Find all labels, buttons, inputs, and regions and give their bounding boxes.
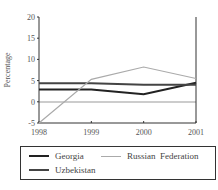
legend-swatch-uzbekistan <box>29 169 49 171</box>
legend-label-uzbekistan: Uzbekistan <box>55 165 96 175</box>
y-tick-label: 15 <box>27 34 35 43</box>
legend-swatch-georgia <box>29 155 49 157</box>
x-tick-label: 1999 <box>83 128 99 137</box>
x-tick-label: 2000 <box>136 128 152 137</box>
series-line-uzbekistan <box>39 83 196 85</box>
series-line-russian-federation <box>39 67 196 123</box>
legend-swatch-russia <box>101 156 121 157</box>
y-axis-label: Percentage <box>3 52 12 88</box>
legend-label-georgia: Georgia <box>55 151 84 161</box>
y-ticks: 20151050-5 <box>27 13 39 128</box>
legend-item-georgia: Georgia <box>29 151 84 161</box>
x-tick-label: 1998 <box>31 128 47 137</box>
y-tick-label: 5 <box>31 77 35 86</box>
legend-item-russia: Russian Federation <box>101 151 199 161</box>
series-lines <box>39 67 196 123</box>
legend: Georgia Uzbekistan Russian Federation <box>20 146 216 180</box>
y-tick-label: 10 <box>27 55 35 64</box>
y-tick-label: 0 <box>31 98 35 107</box>
y-tick-label: -5 <box>28 119 35 128</box>
x-tick-label: 2001 <box>188 128 204 137</box>
legend-item-uzbekistan: Uzbekistan <box>29 165 96 175</box>
y-tick-label: 20 <box>27 13 35 22</box>
legend-label-russia: Russian Federation <box>127 151 199 161</box>
